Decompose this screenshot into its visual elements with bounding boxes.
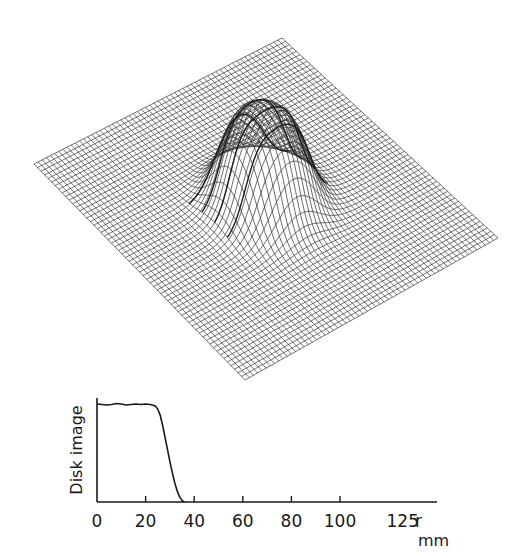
x-tick-label: 60 (232, 511, 254, 531)
mesh-line (261, 49, 477, 250)
x-axis-ticks (146, 496, 340, 502)
surface-mesh-plot (0, 0, 520, 395)
y-axis-title: Disk image (67, 405, 86, 494)
profile-curve (97, 403, 184, 502)
mesh-line (217, 211, 469, 351)
mesh-line (282, 38, 498, 238)
mesh-line (220, 215, 472, 355)
mesh-line (253, 53, 468, 255)
disk-image-profile-plot: 020406080100125 Disk image r mm (0, 390, 520, 558)
mesh-line (278, 40, 494, 240)
x-tick-label: 20 (135, 511, 157, 531)
x-axis-variable: r (415, 511, 422, 531)
x-axis-tick-labels: 020406080100125 (92, 511, 419, 531)
x-tick-label: 40 (183, 511, 205, 531)
x-tick-label: 100 (324, 511, 356, 531)
x-tick-label: 80 (281, 511, 303, 531)
x-axis-unit: mm (418, 531, 449, 550)
mesh-grid-lines (34, 38, 498, 380)
mesh-line (249, 55, 464, 257)
mesh-line (274, 42, 490, 243)
x-tick-label: 0 (92, 511, 103, 531)
